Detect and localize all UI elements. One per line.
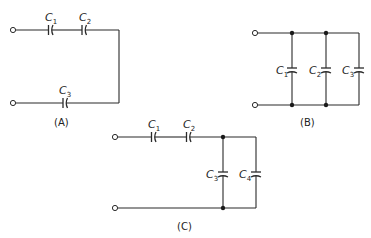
capacitor-c1-icon (152, 132, 157, 142)
label-c1: C1 (276, 64, 288, 79)
junction-dot-icon (324, 103, 328, 107)
label-c1: C1 (45, 11, 57, 26)
terminal-icon (10, 100, 15, 105)
junction-dot-icon (290, 31, 294, 35)
terminal-icon (252, 102, 257, 107)
circuit-c: C1 C2 C3 C4 (C) (112, 118, 261, 232)
capacitor-c2-icon (321, 68, 331, 73)
terminal-icon (112, 205, 117, 210)
capacitor-c3-icon (354, 68, 364, 73)
label-c3: C3 (342, 64, 354, 79)
terminal-icon (252, 30, 257, 35)
capacitor-c3-icon (63, 98, 68, 108)
capacitor-c1-icon (49, 25, 54, 35)
label-c3: C3 (59, 84, 71, 99)
capacitor-c2-icon (187, 132, 192, 142)
caption-a: (A) (54, 117, 69, 128)
capacitor-circuits-figure: C1 C2 C3 (A) (0, 0, 371, 238)
label-c4: C4 (239, 168, 252, 183)
label-c2: C2 (309, 64, 321, 79)
junction-dot-icon (221, 206, 225, 210)
label-c2: C2 (79, 11, 91, 26)
capacitor-c1-icon (287, 68, 297, 73)
circuit-b: C1 C2 C3 (B) (252, 30, 364, 128)
label-c2: C2 (183, 118, 195, 133)
label-c3: C3 (206, 168, 218, 183)
junction-dot-icon (324, 31, 328, 35)
capacitor-c2-icon (82, 25, 87, 35)
junction-dot-icon (290, 103, 294, 107)
capacitor-c4-icon (251, 172, 261, 177)
caption-b: (B) (300, 117, 315, 128)
terminal-icon (112, 134, 117, 139)
junction-dot-icon (221, 135, 225, 139)
caption-c: (C) (177, 221, 192, 232)
label-c1: C1 (148, 118, 160, 133)
circuit-a: C1 C2 C3 (A) (10, 11, 119, 128)
capacitor-c3-icon (218, 172, 228, 177)
terminal-icon (10, 27, 15, 32)
